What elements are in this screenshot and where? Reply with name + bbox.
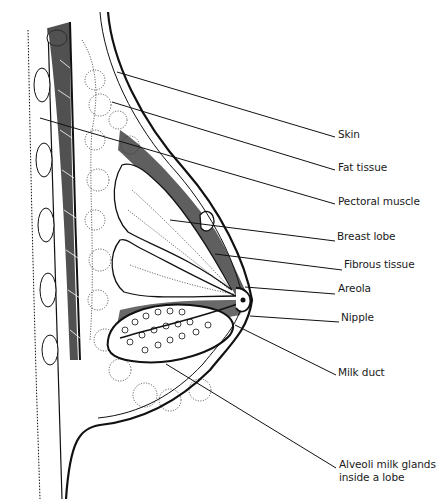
leader-line-alveoli xyxy=(166,364,336,468)
label-areola: Areola xyxy=(338,282,371,294)
label-nipple: Nipple xyxy=(341,311,374,323)
leader-line-nipple xyxy=(250,316,339,322)
leader-line-milk-duct xyxy=(235,325,336,375)
label-milk-duct: Milk duct xyxy=(338,366,385,378)
label-breast-lobe: Breast lobe xyxy=(337,230,395,242)
label-skin: Skin xyxy=(338,128,360,140)
nipple-areola xyxy=(236,288,250,311)
label-alveoli-line1: Alveoli milk glands xyxy=(339,458,436,470)
leader-line-skin xyxy=(117,72,335,137)
label-pectoral-muscle: Pectoral muscle xyxy=(338,195,420,207)
label-fat-tissue: Fat tissue xyxy=(338,161,387,173)
leader-line-pectoral-muscle xyxy=(40,118,335,204)
label-alveoli-line2: inside a lobe xyxy=(339,471,404,483)
label-fibrous-tissue: Fibrous tissue xyxy=(344,258,415,270)
leader-lines xyxy=(40,72,342,468)
leader-line-areola xyxy=(245,287,335,294)
